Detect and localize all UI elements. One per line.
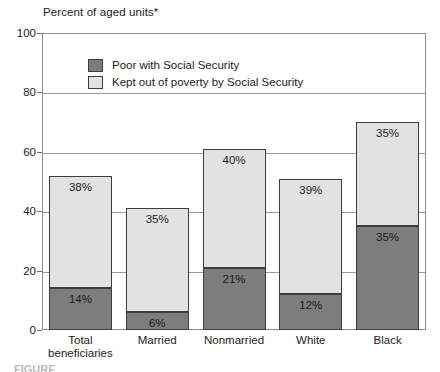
gridline-80 bbox=[43, 93, 425, 94]
legend-item: Kept out of poverty by Social Security bbox=[88, 74, 338, 90]
bar-segment-kept-out-of-poverty: 39% bbox=[279, 179, 342, 295]
bar-segment-label: 21% bbox=[222, 269, 245, 286]
bar-segment-label: 35% bbox=[376, 123, 399, 140]
bar-group: 21%40% bbox=[203, 149, 266, 330]
x-category-label-line: White bbox=[272, 334, 349, 347]
bar-group: 6%35% bbox=[126, 208, 189, 330]
legend-label: Poor with Social Security bbox=[112, 59, 239, 71]
y-axis-caption: Percent of aged units* bbox=[43, 6, 158, 18]
x-category-label-line: Black bbox=[349, 334, 426, 347]
figure-stacked-bar-chart: Percent of aged units* 020406080100 14%3… bbox=[0, 0, 440, 372]
chart-legend: Poor with Social SecurityKept out of pov… bbox=[88, 57, 338, 91]
x-category-label-nonmarried: Nonmarried bbox=[196, 334, 273, 347]
legend-item: Poor with Social Security bbox=[88, 57, 338, 73]
legend-label: Kept out of poverty by Social Security bbox=[112, 76, 303, 88]
bar-segment-label: 35% bbox=[376, 227, 399, 244]
x-category-label-line: Nonmarried bbox=[196, 334, 273, 347]
y-tick-mark-80 bbox=[37, 92, 42, 93]
y-tick-mark-100 bbox=[37, 33, 42, 34]
figure-caption-cropped: FIGURE bbox=[14, 363, 56, 372]
bar-segment-label: 40% bbox=[222, 150, 245, 167]
bar-segment-poor-with-social-security: 12% bbox=[279, 294, 342, 330]
x-category-label-line: Total bbox=[42, 334, 119, 347]
bar-segment-poor-with-social-security: 6% bbox=[126, 312, 189, 330]
x-category-label-line: beneficiaries bbox=[42, 347, 119, 360]
bar-segment-label: 14% bbox=[69, 289, 92, 306]
legend-swatch-light bbox=[88, 76, 103, 89]
bar-segment-poor-with-social-security: 14% bbox=[49, 288, 112, 330]
bar-segment-kept-out-of-poverty: 35% bbox=[356, 122, 419, 226]
legend-swatch-dark bbox=[88, 59, 103, 72]
bar-segment-label: 35% bbox=[146, 209, 169, 226]
y-tick-mark-20 bbox=[37, 271, 42, 272]
bar-segment-label: 6% bbox=[149, 313, 166, 330]
y-tick-mark-0 bbox=[37, 330, 42, 331]
bar-segment-poor-with-social-security: 21% bbox=[203, 268, 266, 330]
y-tick-mark-60 bbox=[37, 152, 42, 153]
bar-segment-label: 39% bbox=[299, 180, 322, 197]
bar-segment-kept-out-of-poverty: 40% bbox=[203, 149, 266, 268]
bar-segment-kept-out-of-poverty: 35% bbox=[126, 208, 189, 312]
x-category-label-black: Black bbox=[349, 334, 426, 347]
x-category-label-married: Married bbox=[119, 334, 196, 347]
y-tick-label-20: 20 bbox=[4, 265, 36, 277]
y-tick-label-60: 60 bbox=[4, 146, 36, 158]
x-category-label-total-beneficiaries: Totalbeneficiaries bbox=[42, 334, 119, 360]
bar-group: 14%38% bbox=[49, 176, 112, 330]
bar-segment-kept-out-of-poverty: 38% bbox=[49, 176, 112, 289]
bar-group: 12%39% bbox=[279, 179, 342, 330]
y-tick-label-40: 40 bbox=[4, 205, 36, 217]
bar-segment-label: 38% bbox=[69, 177, 92, 194]
y-tick-mark-40 bbox=[37, 211, 42, 212]
x-category-label-line: Married bbox=[119, 334, 196, 347]
y-tick-label-80: 80 bbox=[4, 86, 36, 98]
bar-segment-poor-with-social-security: 35% bbox=[356, 226, 419, 330]
bar-segment-label: 12% bbox=[299, 295, 322, 312]
y-tick-label-0: 0 bbox=[4, 324, 36, 336]
y-tick-label-100: 100 bbox=[4, 27, 36, 39]
bar-group: 35%35% bbox=[356, 122, 419, 330]
x-category-label-white: White bbox=[272, 334, 349, 347]
